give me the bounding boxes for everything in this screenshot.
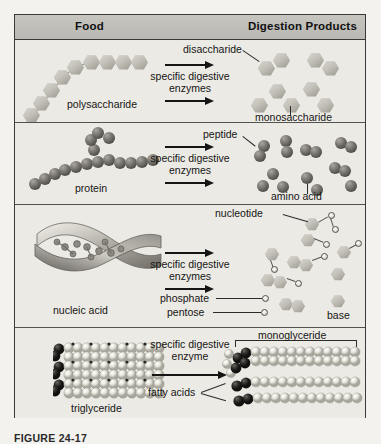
enzyme-text: specific digestive enzymes bbox=[125, 259, 255, 282]
reaction-nucleic-acid: specific digestive enzymes bbox=[125, 246, 255, 295]
row-nucleic-acid: nucleic acid specific digestive enzymes bbox=[15, 206, 365, 328]
figure-header: Food Digestion Products bbox=[15, 15, 365, 40]
header-food-label: Food bbox=[75, 20, 104, 32]
leader-phosphate bbox=[216, 298, 262, 299]
label-protein: protein bbox=[75, 182, 107, 194]
reaction-arrow-top bbox=[165, 60, 215, 69]
label-nucleic-acid: nucleic acid bbox=[53, 304, 108, 316]
reaction-arrow-top bbox=[165, 248, 215, 257]
fatty-acid-chain bbox=[231, 377, 360, 392]
label-fatty-acids: fatty acids bbox=[148, 386, 195, 398]
reaction-arrow-bottom bbox=[165, 178, 215, 187]
row-divider bbox=[15, 327, 365, 328]
label-peptide: peptide bbox=[203, 128, 237, 140]
header-digestion-products-label: Digestion Products bbox=[248, 20, 357, 32]
digestion-products-lipid bbox=[221, 346, 363, 408]
fatty-acid-chain bbox=[233, 393, 362, 407]
label-triglyceride: triglyceride bbox=[71, 402, 122, 414]
label-amino-acid: amino acid bbox=[271, 190, 322, 202]
reaction-carbohydrate: specific digestive enzymes bbox=[125, 58, 255, 107]
label-nucleotide: nucleotide bbox=[215, 207, 263, 219]
row-lipid: triglyceride specific digestive enzyme m… bbox=[15, 329, 365, 418]
label-disaccharide: disaccharide bbox=[183, 43, 242, 55]
label-monoglyceride: monoglyceride bbox=[258, 329, 326, 341]
reaction-arrow bbox=[152, 370, 228, 379]
digestion-figure: Food Digestion Products polysaccharide bbox=[14, 14, 366, 418]
row-divider bbox=[15, 122, 365, 123]
row-protein: protein specific digestive enzymes bbox=[15, 124, 365, 205]
row-carbohydrate: polysaccharide specific digestive enzyme… bbox=[15, 40, 365, 123]
enzyme-text: specific digestive enzymes bbox=[125, 153, 255, 176]
label-base: base bbox=[327, 309, 350, 321]
enzyme-text: specific digestive enzymes bbox=[125, 71, 255, 94]
leader-pentose bbox=[213, 312, 261, 313]
reaction-arrow-bottom bbox=[165, 96, 215, 105]
reaction-protein: specific digestive enzymes bbox=[125, 140, 255, 189]
label-pentose: pentose bbox=[167, 306, 204, 318]
glycerol-head bbox=[222, 348, 251, 378]
figure-caption: FIGURE 24-17 bbox=[14, 432, 374, 444]
reaction-arrow-top bbox=[165, 142, 215, 151]
row-divider bbox=[15, 204, 365, 205]
label-phosphate: phosphate bbox=[160, 292, 209, 304]
